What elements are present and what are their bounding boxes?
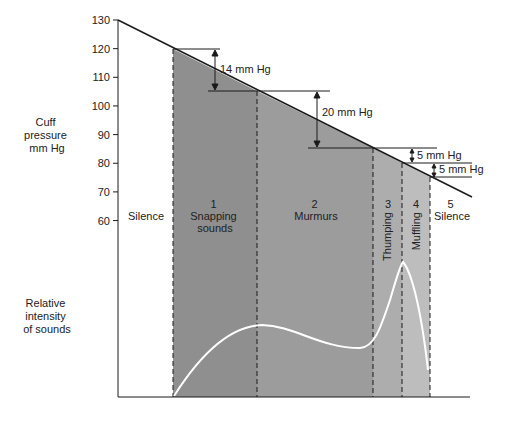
y-tick-label: 70 bbox=[98, 186, 110, 198]
zone-4-label: Muffling bbox=[410, 212, 422, 250]
y-tick-label: 80 bbox=[98, 157, 110, 169]
zone-2-murmurs-fill bbox=[257, 91, 373, 397]
arrowhead-icon bbox=[410, 149, 414, 153]
y-tick-label: 60 bbox=[98, 215, 110, 227]
cuff-pressure-label: Cuff pressure mm Hg bbox=[24, 116, 70, 154]
arrowhead-icon bbox=[212, 50, 218, 56]
zone-4-number: 4 bbox=[413, 198, 419, 210]
annotation-5b: 5 mm Hg bbox=[439, 163, 484, 175]
y-tick-label: 90 bbox=[98, 129, 110, 141]
annotation-14: 14 mm Hg bbox=[220, 63, 271, 75]
arrowhead-icon bbox=[432, 173, 436, 177]
zone-3-label: Thumping bbox=[381, 212, 393, 261]
y-tick-label: 120 bbox=[92, 43, 110, 55]
zone-5-label: 5 Silence bbox=[434, 198, 470, 222]
y-ticks: 13012011010090807060 bbox=[92, 14, 118, 227]
annotation-5a: 5 mm Hg bbox=[417, 149, 462, 161]
arrowhead-icon bbox=[410, 158, 414, 162]
intensity-label: Relative intensity of sounds bbox=[23, 297, 71, 335]
arrowhead-icon bbox=[432, 164, 436, 168]
y-tick-label: 110 bbox=[92, 71, 110, 83]
zone-3-number: 3 bbox=[385, 198, 391, 210]
y-tick-label: 100 bbox=[92, 100, 110, 112]
annotation-20: 20 mm Hg bbox=[322, 106, 373, 118]
korotkoff-sounds-diagram: 13012011010090807060 14 mm Hg 20 mm Hg 5… bbox=[0, 0, 509, 421]
zone-silence-label: Silence bbox=[128, 210, 164, 222]
y-tick-label: 130 bbox=[92, 14, 110, 26]
arrowhead-icon bbox=[314, 92, 320, 98]
